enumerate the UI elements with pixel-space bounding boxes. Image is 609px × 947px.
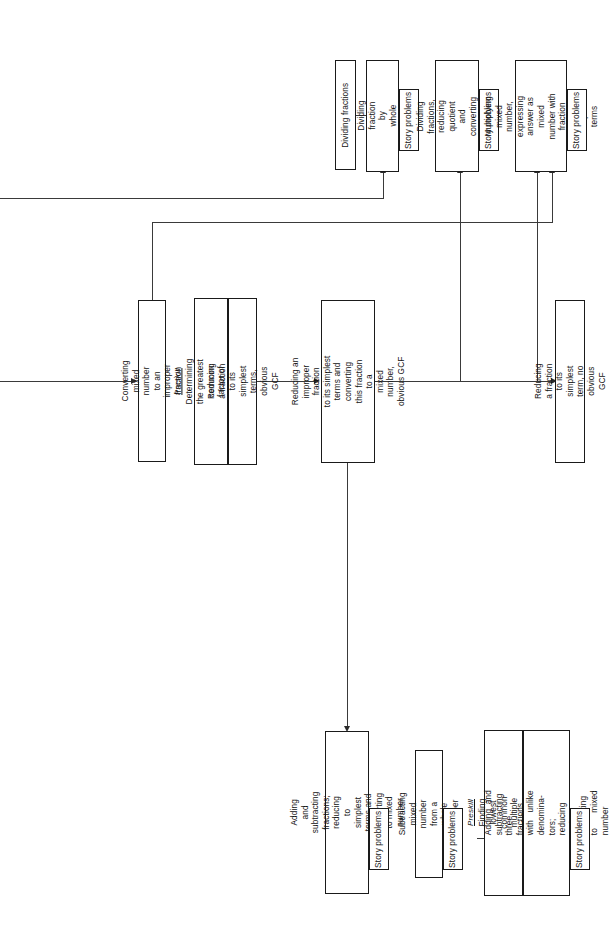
connector-up-to-dividing-whole [383, 172, 384, 199]
story-problems-box-4[interactable]: Story problems [369, 808, 389, 870]
connector-left-edge-upper [0, 198, 383, 199]
story-problems-box-6[interactable]: Story problems [570, 808, 590, 870]
node-dividing-fractions-label: Dividing fractions [340, 83, 351, 148]
node-converting-mixed-number[interactable]: Converting mixed number to an improper f… [138, 300, 166, 462]
preskill-tag-1: Preskill [173, 359, 183, 405]
node-adding-subtracting-three-fractions-label: Adding and subtracting three fractions w… [483, 791, 609, 836]
story-problems-box-5[interactable]: Story problems [443, 808, 463, 870]
story-problems-label-1: Story problems [404, 91, 415, 148]
connector-branch-to-multiplying-a [537, 172, 538, 382]
story-problems-label-3: Story problems [572, 91, 583, 148]
node-dividing-fractions-reducing[interactable]: Dividing fractions, reducing quotient an… [435, 60, 479, 172]
story-problems-box-3[interactable]: Story problems [567, 89, 587, 151]
preskill-tag-2: Preskill [466, 794, 476, 831]
node-reducing-obvious-gcf-label: Reducing a fraction to its simplest term… [205, 364, 279, 400]
node-reducing-no-obvious-gcf-label: Reducing a fraction to its simplest term… [533, 364, 607, 400]
story-problems-label-6: Story problems [575, 810, 586, 867]
node-adding-subtracting-fractions[interactable]: Adding and subtracting fractions; reduci… [325, 731, 369, 894]
connector-branch-to-dividing-reducing [460, 172, 461, 382]
story-problems-label-5: Story problems [448, 810, 459, 867]
node-dividing-fraction-by-whole[interactable]: Dividing fraction by whole number [366, 60, 399, 172]
connector-improper-down [347, 463, 348, 727]
node-reducing-improper-fraction[interactable]: Reducing an improper fraction to its sim… [321, 300, 375, 463]
flowchart-canvas: Dividing fractions Dividing fraction by … [0, 0, 609, 947]
node-adding-subtracting-three-fractions[interactable]: Adding and subtracting three fractions w… [523, 730, 570, 896]
connector-converting-right [152, 222, 552, 223]
node-dividing-fractions[interactable]: Dividing fractions [335, 60, 356, 170]
node-reducing-no-obvious-gcf[interactable]: Reducing a fraction to its simplest term… [555, 300, 585, 463]
connector-left-edge-lower [0, 381, 131, 382]
connector-up-to-multiplying-b [552, 172, 553, 223]
node-reducing-improper-fraction-label: Reducing an improper fraction to its sim… [290, 355, 407, 407]
node-reducing-obvious-gcf[interactable]: Reducing a fraction to its simplest term… [228, 298, 257, 465]
node-multiplying-mixed-number[interactable]: Multiplying mixed number, expressing ans… [515, 60, 567, 172]
story-problems-label-4: Story problems [374, 810, 385, 867]
node-subtracting-mixed-number[interactable]: Subtracting mixed number from a whole nu… [415, 750, 443, 878]
connector-converting-up [152, 222, 153, 300]
